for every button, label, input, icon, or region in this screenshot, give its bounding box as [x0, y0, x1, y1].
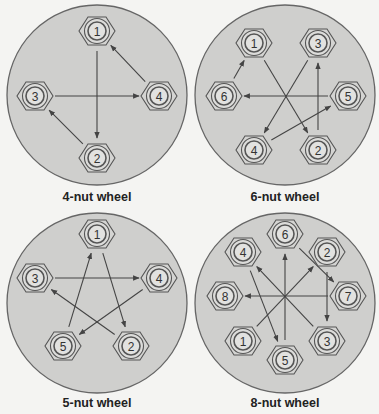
caption-5-nut: 5-nut wheel: [2, 396, 192, 410]
nut-number: 2: [94, 152, 101, 166]
nut-number: 1: [94, 25, 101, 39]
nut-number: 7: [345, 290, 352, 304]
nut-number: 8: [222, 290, 229, 304]
caption-4-nut: 4-nut wheel: [2, 190, 192, 204]
nut-number: 3: [324, 335, 331, 349]
nut-number: 1: [94, 228, 101, 242]
nut-number: 5: [60, 340, 67, 354]
nut-number: 4: [251, 144, 258, 158]
nut-number: 4: [156, 90, 163, 104]
wheel-4-nut: 1234: [7, 5, 187, 185]
nut-number: 4: [156, 272, 163, 286]
wheel-5-nut: 12345: [7, 213, 187, 393]
lug-nut-tightening-diagram: 12341234561234512345678: [0, 0, 379, 414]
nut-number: 6: [282, 228, 289, 242]
nut-number: 2: [128, 340, 135, 354]
nut-number: 3: [32, 272, 39, 286]
nut-number: 3: [32, 90, 39, 104]
nut-number: 1: [240, 335, 247, 349]
nut-number: 3: [315, 37, 322, 51]
nut-number: 6: [221, 90, 228, 104]
nut-number: 5: [345, 90, 352, 104]
nut-number: 4: [240, 246, 247, 260]
nut-number: 5: [282, 354, 289, 368]
nut-number: 2: [324, 246, 331, 260]
wheel-6-nut: 123456: [195, 5, 375, 185]
caption-8-nut: 8-nut wheel: [190, 396, 379, 410]
wheel-8-nut: 12345678: [195, 213, 375, 393]
caption-6-nut: 6-nut wheel: [190, 190, 379, 204]
nut-number: 1: [251, 37, 258, 51]
nut-number: 2: [315, 144, 322, 158]
